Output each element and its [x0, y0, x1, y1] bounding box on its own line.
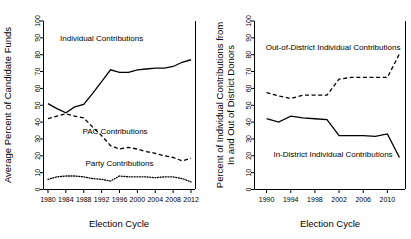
y-tick-label: 80 — [245, 51, 252, 59]
y-tick-label: 100 — [34, 15, 41, 27]
chart-svg-in-out-district: 0102030405060708090100 19901994199820022… — [205, 0, 411, 239]
y-tick-label: 30 — [245, 135, 252, 143]
series-line-dotted — [48, 176, 191, 182]
x-tick-label: 2004 — [147, 196, 163, 203]
x-tick-label: 1994 — [283, 196, 299, 203]
series-annotations-right: Out-of-District Individual Contributions… — [266, 43, 401, 160]
series-label: PAC Contributions — [82, 127, 147, 136]
y-tick-label: 20 — [245, 152, 252, 160]
x-tick-label: 2006 — [355, 196, 371, 203]
y-tick-label: 80 — [34, 51, 41, 59]
x-tick-label: 1992 — [94, 196, 110, 203]
chart-svg-candidate-funds: 0102030405060708090100 19801984198819921… — [0, 0, 206, 239]
x-tick-label: 1988 — [76, 196, 92, 203]
y-tick-label: 40 — [245, 118, 252, 126]
y-axis-group-right: 0102030405060708090100 — [245, 15, 254, 191]
x-tick-label: 1996 — [112, 196, 128, 203]
y-tick-label: 50 — [245, 101, 252, 109]
y-tick-label: 40 — [34, 118, 41, 126]
series-label: In-District Individual Contributions — [273, 150, 392, 159]
y-tick-labels-right: 0102030405060708090100 — [245, 15, 252, 191]
y-axis-title-right-line2: In and Out of District Donors — [225, 45, 236, 165]
x-tick-labels-right: 199019941998200220062010 — [259, 196, 395, 203]
x-tick-label: 1998 — [307, 196, 323, 203]
x-tick-marks-left — [48, 190, 191, 194]
y-tick-label: 70 — [245, 68, 252, 76]
series-label: Out-of-District Individual Contributions — [266, 43, 401, 52]
x-tick-label: 2012 — [183, 196, 199, 203]
y-tick-label: 0 — [34, 187, 41, 191]
x-axis-title-left: Election Cycle — [89, 218, 149, 229]
figure-two-panel-line-charts: 0102030405060708090100 19801984198819921… — [0, 0, 411, 239]
y-axis-title-right-line1: Percent of Individual Contributions from — [214, 22, 225, 188]
y-tick-label: 100 — [245, 15, 252, 27]
y-tick-label: 50 — [34, 101, 41, 109]
series-label: Party Contributions — [85, 159, 153, 168]
x-axis-group-right: 199019941998200220062010 — [255, 190, 406, 203]
y-axis-title-left: Average Percent of Candidate Funds — [2, 27, 13, 183]
series-line-solid — [48, 60, 191, 113]
chart-panel-candidate-funds: 0102030405060708090100 19801984198819921… — [0, 0, 206, 239]
x-axis-title-right: Election Cycle — [300, 218, 360, 229]
y-tick-label: 0 — [245, 187, 252, 191]
series-line-dashed — [48, 114, 191, 161]
x-tick-label: 1980 — [40, 196, 56, 203]
x-tick-label: 2010 — [380, 196, 396, 203]
series-line-dashed — [267, 54, 400, 99]
y-tick-label: 10 — [34, 169, 41, 177]
chart-panel-in-out-district: 0102030405060708090100 19901994199820022… — [205, 0, 411, 239]
x-axis-group-left: 198019841988199219962000200420082012 — [40, 190, 199, 203]
x-tick-label: 1984 — [58, 196, 74, 203]
x-tick-label: 2002 — [331, 196, 347, 203]
y-tick-label: 30 — [34, 135, 41, 143]
series-annotations-left: Individual ContributionsPAC Contribution… — [60, 34, 153, 168]
y-tick-label: 20 — [34, 152, 41, 160]
y-tick-label: 90 — [245, 34, 252, 42]
y-tick-label: 70 — [34, 68, 41, 76]
series-lines-right — [267, 54, 400, 158]
series-label: Individual Contributions — [60, 34, 143, 43]
y-tick-labels-left: 0102030405060708090100 — [34, 15, 41, 191]
y-tick-label: 90 — [34, 34, 41, 42]
y-tick-label: 10 — [245, 169, 252, 177]
x-tick-label: 2000 — [130, 196, 146, 203]
y-axis-title-right: Percent of Individual Contributions from… — [214, 22, 236, 188]
y-tick-label: 60 — [245, 84, 252, 92]
y-tick-label: 60 — [34, 84, 41, 92]
x-tick-labels-left: 198019841988199219962000200420082012 — [40, 196, 199, 203]
x-tick-label: 2008 — [165, 196, 181, 203]
x-tick-label: 1990 — [259, 196, 275, 203]
x-tick-marks-right — [267, 190, 388, 194]
y-axis-group-left: 0102030405060708090100 — [34, 15, 43, 191]
